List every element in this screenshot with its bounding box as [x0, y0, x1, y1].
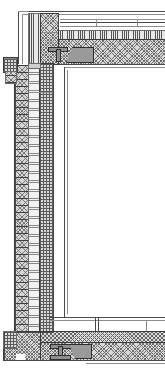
upper-tee-web — [56, 49, 61, 62]
roof-membrane-line-4 — [60, 26, 165, 27]
floor-finish-line-2 — [49, 320, 165, 321]
opening-jamb-line-inner — [67, 70, 68, 314]
outer-face-line-upper-inner — [22, 14, 23, 64]
opening-jamb-line — [64, 67, 65, 317]
wall-section-drawing — [0, 0, 165, 371]
parapet-top-inner-line — [22, 14, 29, 15]
floor-finish-line-1 — [49, 317, 165, 318]
roof-outer-edge-line — [18, 11, 29, 12]
wall-tie-bracket — [4, 58, 17, 72]
floor-band-tick-3 — [146, 320, 147, 331]
base-pad-overlay — [4, 332, 16, 348]
base-rebate-notch — [16, 354, 25, 360]
floor-band-tick-1 — [95, 317, 96, 331]
roof-membrane-tick-1 — [96, 19, 97, 27]
wall-tie-bracket-lower — [6, 72, 16, 83]
cavity-closer-strip — [29, 64, 40, 68]
glazed-opening-void — [54, 68, 165, 314]
floor-soffit-line-secondary — [86, 363, 165, 364]
parapet-reveal-line — [41, 32, 58, 33]
floor-soffit-line — [40, 360, 165, 361]
bracket-reference-line — [4, 58, 17, 59]
parapet-coping-line — [18, 11, 165, 12]
wall-inner-leaf-hatch — [40, 64, 53, 332]
floor-band-tick-2 — [98, 317, 99, 331]
roof-membrane-line-3 — [60, 22, 165, 23]
roof-insulation-hatch — [58, 31, 165, 40]
base-underside-line — [4, 360, 40, 361]
wall-outer-face-line — [15, 66, 16, 332]
wall-tie-line-mid — [29, 92, 53, 93]
roof-membrane-tick-2 — [137, 19, 138, 27]
wall-base-line — [15, 332, 53, 333]
wall-cavity-insulation-hatch — [29, 64, 40, 332]
opening-head-line — [58, 64, 165, 65]
parapet-outer-face-hatch — [29, 14, 41, 64]
outer-face-line-upper — [18, 11, 19, 64]
base-left-edge-line — [4, 332, 5, 360]
roof-membrane-line-2 — [60, 19, 165, 20]
wall-outer-masonry-leaf-hatch — [15, 66, 29, 332]
floor-screed-hatch — [40, 332, 165, 343]
parapet-inner-face-line — [58, 14, 59, 31]
lower-tee-bottom-flange — [50, 355, 71, 360]
